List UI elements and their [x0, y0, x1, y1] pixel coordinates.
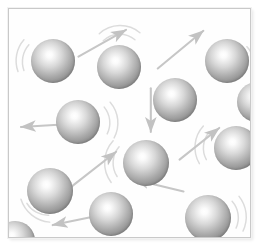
particle — [153, 78, 197, 122]
particle — [27, 168, 73, 214]
particle — [214, 126, 251, 170]
particle — [8, 221, 35, 238]
figure-root — [0, 0, 260, 247]
particle — [237, 82, 251, 122]
particle — [185, 195, 231, 238]
particle — [31, 39, 75, 83]
particle — [89, 192, 133, 236]
container-panel — [8, 8, 251, 238]
particle — [205, 39, 249, 83]
particle-layer — [9, 9, 250, 237]
particle — [123, 140, 169, 186]
particle — [97, 45, 141, 89]
particle — [56, 100, 100, 144]
